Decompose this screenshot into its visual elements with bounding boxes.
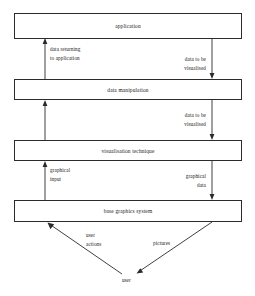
edge-label-line-2: visualised [148,64,206,73]
edge-label-data-to-be-visualised-upper: data to be visualised [148,55,206,72]
edge-label-line-1: data returning [50,45,80,54]
box-application-label: application [115,23,141,29]
box-application[interactable]: application [14,13,242,39]
edge-label-data-returning-to-application: data returning to application [50,45,80,62]
box-data-manipulation-label: data manipulation [107,87,148,93]
edge-label-line-2: data [150,181,206,190]
diagram-canvas: application data manipulation visualisat… [0,0,255,296]
box-base-graphics-system-label: base graphics system [104,208,153,214]
arrow-base-graphics-system-to-user [137,222,213,274]
box-visualisation-technique-label: visualisation technique [101,148,154,154]
edge-label-line-1: user [86,231,101,240]
edge-label-line-1: graphical [150,172,206,181]
box-base-graphics-system[interactable]: base graphics system [14,200,242,222]
box-data-manipulation[interactable]: data manipulation [14,79,242,100]
edge-label-graphical-input: graphical input [50,166,70,183]
edge-label-data-to-be-visualised-lower: data to be visualised [148,111,206,128]
edge-label-user-actions: user actions [86,231,101,248]
box-visualisation-technique[interactable]: visualisation technique [14,140,242,161]
edge-label-line-1: data to be [148,55,206,64]
edge-label-line-2: visualised [148,120,206,129]
edge-label-line-2: actions [86,240,101,249]
edge-label-line-2: input [50,175,70,184]
arrow-data-manipulation-to-application [43,38,48,79]
node-user-label: user [122,277,131,283]
edge-label-graphical-data: graphical data [150,172,206,189]
arrow-visualisation-technique-to-data-manipulation [43,100,48,140]
arrow-data-manipulation-to-visualisation-technique [210,100,215,140]
edge-label-line-1: pictures [153,239,170,248]
arrow-user-to-base-graphics-system [48,223,123,275]
edge-label-line-1: graphical [50,166,70,175]
arrow-application-to-data-manipulation [210,38,215,79]
node-user: user [122,277,131,283]
edge-label-line-1: data to be [148,111,206,120]
edge-label-line-2: to application [50,54,80,63]
arrow-base-graphics-system-to-visualisation-technique [43,161,48,200]
arrow-visualisation-technique-to-base-graphics-system [210,161,215,200]
edge-label-pictures: pictures [153,239,170,248]
